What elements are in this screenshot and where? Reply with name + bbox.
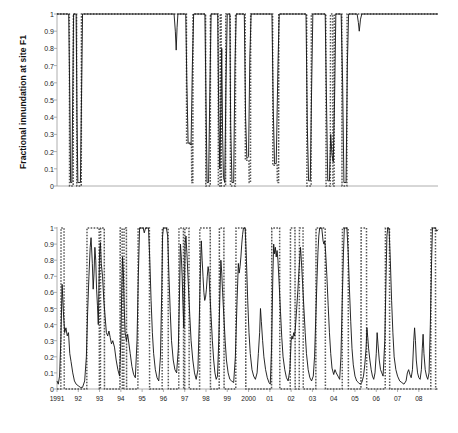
y-tick-label: 1 [50,225,54,232]
y-tick-label: 0.6 [44,289,54,296]
y-tick-label: 0.7 [44,273,54,280]
y-tick-label: 0.7 [44,62,54,69]
y-tick-label: 0.5 [44,305,54,312]
x-tick-label: 98 [202,395,209,402]
x-tick-label: 96 [160,395,167,402]
x-tick-label: 97 [181,395,188,402]
series-line-solid [57,228,438,387]
series-line-dotted [57,14,438,186]
y-tick-label: 0.9 [44,28,54,35]
y-axis-ticks-top: 10.90.80.70.60.50.40.30.20.10 [34,0,54,196]
y-tick-label: 0.8 [44,45,54,52]
y-axis-ticks-bottom: 10.90.80.70.60.50.40.30.20.10 [34,213,54,399]
y-tick-label: 0.3 [44,337,54,344]
y-tick-label: 0 [50,183,54,190]
y-axis-label-top: Fractional innundation at site F1 [18,22,28,182]
y-tick-label: 0.3 [44,131,54,138]
x-tick-label: 99 [224,395,231,402]
x-tick-label: 07 [394,395,401,402]
y-tick-label: 0.4 [44,114,54,121]
chart-panel-site-f1: Fractional innundation at site F1 10.90.… [0,0,458,200]
x-tick-label: 95 [138,395,145,402]
x-tick-label: 08 [415,395,422,402]
figure-root: Fractional innundation at site F1 10.90.… [0,0,458,433]
series-line-dotted [57,228,438,389]
plot-area-site-f1 [0,0,458,200]
y-tick-label: 0.2 [44,353,54,360]
chart-panel-site-ti2: Fractional innundation at site TI2 10.90… [0,213,458,433]
x-tick-label: 92 [75,395,82,402]
x-tick-label: 2000 [241,395,256,402]
y-tick-label: 0.5 [44,97,54,104]
x-tick-label: 01 [266,395,273,402]
y-tick-label: 0.4 [44,321,54,328]
y-tick-label: 1 [50,11,54,18]
x-tick-label: 06 [373,395,380,402]
x-tick-label: 03 [309,395,316,402]
x-tick-label: 94 [117,395,124,402]
x-tick-label: 02 [287,395,294,402]
y-tick-label: 0.1 [44,369,54,376]
y-tick-label: 0.1 [44,165,54,172]
x-tick-label: 05 [351,395,358,402]
series-line-solid [57,14,438,183]
x-tick-label: 93 [96,395,103,402]
y-tick-label: 0.9 [44,241,54,248]
y-tick-label: 0.2 [44,148,54,155]
y-tick-label: 0.8 [44,257,54,264]
x-tick-label: 1991 [50,395,65,402]
y-tick-label: 0 [50,386,54,393]
y-tick-label: 0.6 [44,79,54,86]
x-axis-ticks-bottom: 1991929394959697989920000102030405060708 [0,395,458,409]
x-tick-label: 04 [330,395,337,402]
